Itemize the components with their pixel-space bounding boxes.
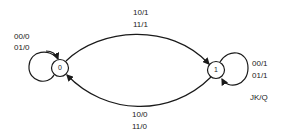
state-0-label: 0 (52, 60, 68, 76)
arc-0-1-label-1: 10/1 (133, 8, 149, 17)
self-loop-1-label-2: 01/1 (252, 71, 268, 80)
state-1-label: 1 (208, 62, 224, 78)
arc-1-to-0 (67, 75, 211, 106)
self-loop-1-label-1: 00/1 (252, 59, 268, 68)
self-loop-0-label-2: 01/0 (14, 43, 30, 52)
legend-jk-q: JK/Q (250, 93, 268, 102)
state-diagram: 0 1 00/0 01/0 10/1 11/1 10/0 11/0 00/1 0… (0, 0, 285, 134)
arc-0-1-label-2: 11/1 (133, 20, 148, 29)
self-loop-0-label-1: 00/0 (14, 32, 30, 41)
arc-1-0-label-2: 11/0 (132, 122, 147, 131)
arc-0-to-1 (66, 34, 209, 64)
arc-1-0-label-1: 10/0 (132, 110, 148, 119)
